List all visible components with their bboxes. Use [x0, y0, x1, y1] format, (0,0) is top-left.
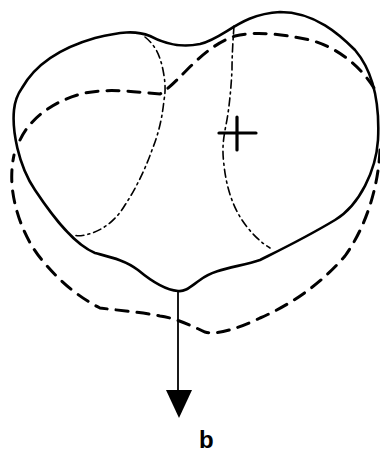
panel-label: b	[199, 428, 214, 452]
down-arrow-icon	[166, 290, 192, 418]
internal-line-left	[75, 37, 165, 236]
dashed-outline	[12, 33, 380, 332]
internal-line-right	[223, 26, 270, 248]
cross-marker-icon	[219, 117, 256, 150]
solid-outline	[14, 12, 379, 291]
